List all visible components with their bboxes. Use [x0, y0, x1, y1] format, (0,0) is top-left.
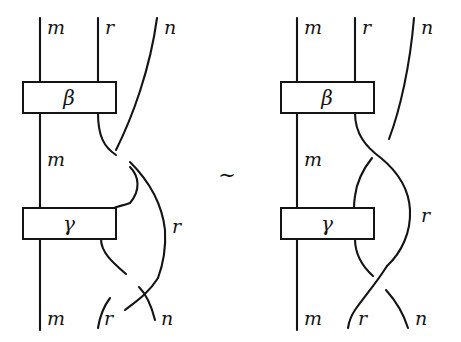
right-label-top-n: n — [421, 16, 433, 38]
left-strand-n-lower — [125, 278, 158, 310]
right-gamma-box-label: γ — [321, 212, 333, 236]
right-strand-lower-right — [386, 290, 408, 328]
right-label-bottom-r: r — [358, 307, 369, 329]
left-label-bottom-m: m — [47, 307, 65, 329]
left-strand-n-bow — [130, 162, 165, 278]
left-label-mid-r: r — [172, 215, 183, 237]
left-strand-r-lower — [101, 239, 126, 274]
right-braid-diagram: β γ m r n m r m r n — [281, 16, 433, 330]
right-strand-lower-left — [348, 266, 387, 328]
right-label-top-m: m — [304, 16, 322, 38]
right-strand-n-upper — [389, 18, 414, 139]
left-braid-diagram: β γ m r n m r m r n — [23, 16, 183, 330]
right-label-mid-m: m — [304, 148, 322, 170]
right-label-top-r: r — [362, 16, 373, 38]
right-strand-n-lower-seg — [354, 158, 372, 208]
right-label-mid-r: r — [421, 204, 432, 226]
right-beta-box-label: β — [320, 86, 333, 110]
left-strand-n-upper — [116, 18, 157, 150]
right-strand-r-upper-cross — [355, 113, 410, 266]
left-label-top-r: r — [105, 16, 116, 38]
right-label-bottom-n: n — [415, 307, 427, 329]
left-gamma-box-label: γ — [63, 212, 75, 236]
left-beta-box-label: β — [62, 86, 75, 110]
left-label-top-n: n — [164, 16, 176, 38]
left-strand-r-upper-cross-cont — [114, 167, 138, 208]
left-label-bottom-r: r — [104, 307, 115, 329]
relation-symbol: ∼ — [218, 163, 236, 187]
left-label-top-m: m — [47, 16, 65, 38]
braid-equivalence-figure: β γ m r n m r m r n ∼ β — [0, 0, 461, 342]
left-strand-r-upper-cross — [98, 113, 116, 155]
figure-root: β γ m r n m r m r n ∼ β — [0, 0, 461, 342]
left-label-mid-m: m — [47, 148, 65, 170]
right-strand-r-below-gamma — [355, 239, 373, 276]
right-label-bottom-m: m — [304, 307, 322, 329]
left-label-bottom-n: n — [161, 307, 173, 329]
